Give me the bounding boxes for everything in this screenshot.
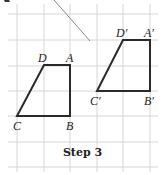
vertex-label-c: C: [13, 120, 21, 132]
vertex-label-b: B: [66, 120, 73, 132]
vertex-label-c-prime: C′: [90, 95, 101, 107]
vertex-label-b-prime: B′: [144, 95, 154, 107]
vertex-label-d-prime: D′: [116, 27, 127, 39]
vertex-label-d: D: [38, 52, 47, 64]
translation-diagram: D A C B D′ A′ C′ B′ Step 3: [0, 0, 165, 175]
vertex-label-a: A: [66, 52, 73, 64]
clipped-glyph-fragment: [4, 0, 10, 2]
vertex-label-a-prime: A′: [144, 27, 154, 39]
figure-caption: Step 3: [0, 147, 165, 158]
diagonal-guide-line: [54, 0, 90, 41]
